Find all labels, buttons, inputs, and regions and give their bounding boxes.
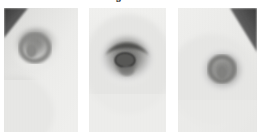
figure-panel-row (0, 8, 262, 132)
figure-panel-right (178, 8, 257, 132)
center-panel-image (89, 8, 166, 132)
right-panel-image (178, 8, 257, 132)
figure-panel-left (4, 8, 78, 132)
left-panel-image (4, 8, 78, 132)
figure-panel-center (89, 8, 166, 132)
figure-caption-text: tion of colour values and region flux fr… (3, 0, 261, 3)
caption-strip: tion of colour values and region flux fr… (0, 0, 262, 7)
